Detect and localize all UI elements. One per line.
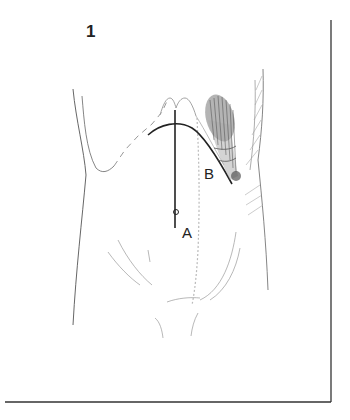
label-incision-a: A [182, 224, 192, 241]
rib-margin-left [82, 96, 114, 172]
linea-alba [192, 118, 199, 305]
xiphoid-contour [160, 98, 196, 116]
costal-margin-dashed [114, 99, 168, 166]
figure-number: 1 [86, 22, 95, 42]
label-incision-b: B [204, 165, 214, 182]
lower-abdomen-contours [108, 232, 240, 338]
torso-left-outline [73, 89, 86, 325]
anatomical-illustration: 1 A B [0, 0, 350, 420]
torso-right-flank [245, 69, 268, 290]
illustration-drawing [0, 0, 350, 420]
